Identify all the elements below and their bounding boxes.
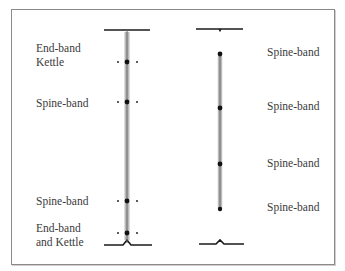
right-spine <box>196 29 244 244</box>
label-left-spineband-1: Spine-band <box>36 96 88 110</box>
label-right-spineband-2: Spine-band <box>267 99 319 113</box>
label-left-endband-kettle-top: End-band Kettle <box>36 41 81 69</box>
label-right-spineband-3: Spine-band <box>267 156 319 170</box>
label-right-spineband-4: Spine-band <box>267 200 319 214</box>
label-left-endband-kettle-bottom: End-band and Kettle <box>36 221 84 249</box>
left-spine <box>104 30 152 245</box>
label-left-spineband-2: Spine-band <box>36 194 88 208</box>
label-right-spineband-1: Spine-band <box>267 45 319 59</box>
